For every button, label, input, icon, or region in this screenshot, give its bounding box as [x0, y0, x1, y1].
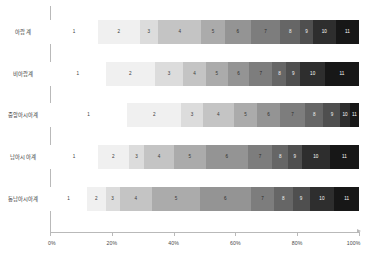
- bar-segment[interactable]: 4: [183, 62, 206, 86]
- bar-segment-label: 9: [300, 197, 303, 202]
- bar-segment-label: 5: [216, 72, 219, 77]
- x-axis-tick: [359, 232, 360, 236]
- bar-segment[interactable]: 6: [257, 103, 280, 127]
- bar-segment[interactable]: 8: [280, 20, 300, 44]
- bar-segment[interactable]: 2: [127, 103, 181, 127]
- category-label: 비아랍계: [0, 70, 46, 78]
- bar-row: 동남아시아계1234567891011: [0, 187, 373, 211]
- bar-segment-label: 11: [352, 113, 357, 118]
- bar-segment[interactable]: 5: [201, 20, 224, 44]
- bar-segment[interactable]: 1: [50, 187, 87, 211]
- stacked-bar-chart: 0%20%40%60%80%100% 아랍계1234567891011비아랍계1…: [0, 0, 373, 263]
- bar-segment[interactable]: 6: [225, 20, 251, 44]
- bar-segment[interactable]: 8: [274, 187, 293, 211]
- bar-segment-label: 6: [226, 155, 229, 160]
- bar-segment[interactable]: 1: [50, 145, 98, 169]
- bar-segment[interactable]: 5: [174, 145, 206, 169]
- x-axis-tick: [174, 232, 175, 236]
- bar-segment[interactable]: 4: [158, 20, 201, 44]
- x-axis-tick: [112, 232, 113, 236]
- bar-segment-label: 2: [95, 197, 98, 202]
- bar-segment[interactable]: 11: [330, 145, 359, 169]
- bar-segment-label: 1: [73, 30, 76, 35]
- bar-segment[interactable]: 11: [350, 103, 359, 127]
- bar-segment[interactable]: 2: [98, 145, 129, 169]
- bar-segment[interactable]: 11: [334, 187, 359, 211]
- bar-segment[interactable]: 1: [50, 62, 106, 86]
- bar-segment-label: 1: [73, 155, 76, 160]
- bar-segment-label: 9: [331, 113, 334, 118]
- bar-segment[interactable]: 10: [302, 145, 330, 169]
- bar-segment[interactable]: 2: [98, 20, 140, 44]
- bar-segment[interactable]: 4: [120, 187, 152, 211]
- bar-segment[interactable]: 6: [228, 62, 250, 86]
- category-label: 동남아시아계: [0, 195, 46, 203]
- bar-segment[interactable]: 7: [280, 103, 305, 127]
- bar-segment[interactable]: 9: [323, 103, 340, 127]
- bar-segment[interactable]: 9: [293, 187, 310, 211]
- stacked-bar: 1234567891011: [50, 20, 359, 44]
- bar-segment[interactable]: 10: [340, 103, 349, 127]
- bar-segment[interactable]: 11: [336, 20, 359, 44]
- bar-segment[interactable]: 8: [272, 145, 287, 169]
- stacked-bar: 1234567891011: [50, 187, 359, 211]
- x-axis-tick: [297, 232, 298, 236]
- bar-segment[interactable]: 9: [300, 20, 312, 44]
- bar-row: 아랍계1234567891011: [0, 20, 373, 44]
- bar-segment[interactable]: 3: [181, 103, 203, 127]
- bar-segment-label: 6: [237, 72, 240, 77]
- bar-segment[interactable]: 5: [152, 187, 200, 211]
- bar-segment[interactable]: 10: [313, 20, 336, 44]
- bar-segment-label: 3: [148, 30, 151, 35]
- bar-segment-label: 6: [267, 113, 270, 118]
- bar-segment[interactable]: 10: [310, 187, 335, 211]
- bar-segment-label: 8: [313, 113, 316, 118]
- bar-segment[interactable]: 4: [203, 103, 234, 127]
- bar-segment[interactable]: 7: [251, 187, 274, 211]
- bar-segment-label: 6: [224, 197, 227, 202]
- bar-segment[interactable]: 5: [206, 62, 228, 86]
- bar-segment-label: 7: [259, 155, 262, 160]
- bar-segment-label: 10: [319, 197, 324, 202]
- bar-segment[interactable]: 3: [129, 145, 144, 169]
- bar-segment[interactable]: 7: [249, 62, 272, 86]
- bar-segment-label: 7: [261, 197, 264, 202]
- bar-segment[interactable]: 9: [288, 145, 302, 169]
- bar-segment-label: 3: [191, 113, 194, 118]
- bar-segment[interactable]: 2: [87, 187, 106, 211]
- stacked-bar: 1234567891011: [50, 62, 359, 86]
- bar-segment-label: 7: [291, 113, 294, 118]
- bar-segment[interactable]: 5: [234, 103, 257, 127]
- bar-segment[interactable]: 4: [144, 145, 173, 169]
- bar-segment-label: 5: [212, 30, 215, 35]
- bar-segment-label: 10: [313, 155, 318, 160]
- bar-segment[interactable]: 6: [200, 187, 251, 211]
- bar-segment[interactable]: 11: [325, 62, 359, 86]
- bar-segment-label: 10: [322, 30, 327, 35]
- bar-segment-label: 2: [112, 155, 115, 160]
- bar-segment[interactable]: 7: [251, 20, 280, 44]
- bar-segment-label: 4: [217, 113, 220, 118]
- bar-segment[interactable]: 1: [50, 20, 98, 44]
- bar-segment-label: 9: [292, 72, 295, 77]
- bar-segment[interactable]: 9: [286, 62, 300, 86]
- x-axis-line: [50, 232, 359, 233]
- bar-segment[interactable]: 10: [300, 62, 325, 86]
- bar-row: 중앙아시아계1234567891011: [0, 103, 373, 127]
- bar-segment-label: 11: [345, 30, 350, 35]
- bar-segment-label: 2: [117, 30, 120, 35]
- bar-segment-label: 1: [87, 113, 90, 118]
- x-axis-tick: [50, 232, 51, 236]
- bar-segment[interactable]: 7: [248, 145, 273, 169]
- bar-segment[interactable]: 3: [140, 20, 159, 44]
- bar-segment[interactable]: 1: [50, 103, 127, 127]
- category-label: 남아시아계: [0, 153, 46, 161]
- bar-segment-label: 7: [260, 72, 263, 77]
- bar-segment[interactable]: 6: [206, 145, 248, 169]
- bar-segment[interactable]: 3: [155, 62, 183, 86]
- bar-segment[interactable]: 8: [272, 62, 286, 86]
- bar-segment[interactable]: 8: [305, 103, 324, 127]
- bar-segment[interactable]: 3: [106, 187, 120, 211]
- bar-segment[interactable]: 2: [106, 62, 155, 86]
- bar-segment-label: 9: [294, 155, 297, 160]
